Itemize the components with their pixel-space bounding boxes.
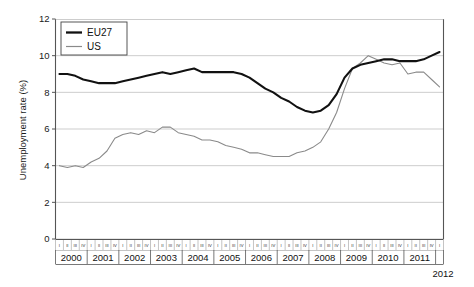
quarter-tick-label: I <box>91 243 92 248</box>
quarter-tick-label: II <box>256 243 258 248</box>
y-tick-label-2: 2 <box>44 197 49 208</box>
x-axis-year-label: 2008 <box>314 252 335 263</box>
quarter-tick-label: IV <box>81 243 85 248</box>
quarter-tick-label: III <box>105 243 109 248</box>
quarter-tick-label: IV <box>271 243 275 248</box>
quarter-tick-label: I <box>376 243 377 248</box>
quarter-tick-label: III <box>295 243 299 248</box>
chart-legend: EU27 US <box>61 22 127 55</box>
quarter-tick-label: III <box>359 243 363 248</box>
y-tick-label-6: 6 <box>44 123 49 134</box>
x-axis-year-label: 2001 <box>92 252 113 263</box>
quarter-tick-label: III <box>232 243 236 248</box>
x-axis-year-label: 2003 <box>156 252 177 263</box>
quarter-tick-label: I <box>186 243 187 248</box>
quarter-tick-label: I <box>59 243 60 248</box>
x-axis-year-label: 2000 <box>61 252 82 263</box>
quarter-tick-label: IV <box>145 243 149 248</box>
quarter-tick-label: II <box>225 243 227 248</box>
y-tick-label-10: 10 <box>39 50 50 61</box>
quarter-tick-label: I <box>281 243 282 248</box>
chart-svg: 024681012 IIIIIIIVIIIIIIIVIIIIIIIVIIIIII… <box>0 0 474 287</box>
quarter-tick-label: III <box>137 243 141 248</box>
quarter-tick-label: II <box>415 243 417 248</box>
quarter-tick-label: III <box>74 243 78 248</box>
quarter-tick-label: III <box>200 243 204 248</box>
quarter-tick-label: III <box>327 243 331 248</box>
quarter-tick-label: II <box>193 243 195 248</box>
quarter-tick-label: II <box>66 243 68 248</box>
y-tick-label-0: 0 <box>44 233 49 244</box>
x-axis-year-label: 2005 <box>219 252 240 263</box>
quarter-tick-label: IV <box>303 243 307 248</box>
quarter-tick-label: IV <box>366 243 370 248</box>
y-tick-label-12: 12 <box>39 13 50 24</box>
quarter-tick-label: IV <box>430 243 434 248</box>
y-tick-label-4: 4 <box>44 160 49 171</box>
quarter-tick-label: III <box>169 243 173 248</box>
quarter-tick-label: I <box>249 243 250 248</box>
quarter-tick-label: II <box>351 243 353 248</box>
y-tick-label-8: 8 <box>44 87 49 98</box>
quarter-tick-label: II <box>320 243 322 248</box>
x-axis-year-label: 2009 <box>346 252 367 263</box>
quarter-tick-label: I <box>407 243 408 248</box>
quarter-tick-label: IV <box>176 243 180 248</box>
quarter-tick-label: IV <box>208 243 212 248</box>
unemployment-rate-line-chart: 024681012 IIIIIIIVIIIIIIIVIIIIIIIVIIIIII… <box>0 0 474 287</box>
quarter-tick-label: I <box>439 243 440 248</box>
quarter-tick-label: IV <box>398 243 402 248</box>
x-axis-year-label: 2002 <box>124 252 145 263</box>
quarter-tick-label: I <box>217 243 218 248</box>
quarter-tick-label: III <box>390 243 394 248</box>
quarter-tick-label: I <box>344 243 345 248</box>
quarter-tick-label: II <box>98 243 100 248</box>
quarter-tick-label: IV <box>240 243 244 248</box>
quarter-tick-label: III <box>264 243 268 248</box>
x-axis-year-label: 2006 <box>251 252 272 263</box>
y-axis-title: Unemployment rate (%) <box>17 80 28 180</box>
quarter-tick-label: I <box>312 243 313 248</box>
legend-label-us: US <box>87 41 101 52</box>
quarter-tick-label: I <box>154 243 155 248</box>
quarter-tick-label: II <box>288 243 290 248</box>
quarter-tick-label: II <box>130 243 132 248</box>
quarter-tick-label: III <box>422 243 426 248</box>
x-axis-end-year-label: 2012 <box>432 268 453 279</box>
x-axis-year-label: 2007 <box>282 252 303 263</box>
x-axis-year-label: 2004 <box>187 252 208 263</box>
legend-label-eu27: EU27 <box>87 27 112 38</box>
quarter-tick-label: IV <box>335 243 339 248</box>
quarter-tick-label: I <box>122 243 123 248</box>
x-axis-year-label: 2010 <box>378 252 399 263</box>
quarter-tick-label: IV <box>113 243 117 248</box>
quarter-tick-label: II <box>383 243 385 248</box>
quarter-tick-label: II <box>161 243 163 248</box>
x-axis-year-label: 2011 <box>410 252 430 263</box>
